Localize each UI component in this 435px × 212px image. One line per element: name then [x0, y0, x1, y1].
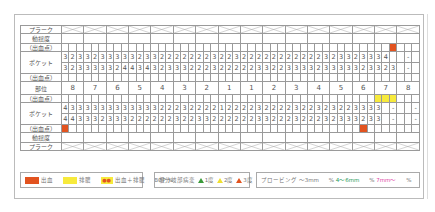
- bleeding-point-cell[interactable]: [412, 125, 420, 133]
- plaque-cell[interactable]: [151, 26, 173, 34]
- pocket-depth-cell[interactable]: 3: [99, 52, 106, 63]
- bleeding-point-cell[interactable]: [211, 74, 218, 82]
- bleeding-point-cell[interactable]: [389, 95, 396, 103]
- plaque-cell[interactable]: [151, 143, 173, 151]
- pocket-depth-cell[interactable]: [397, 52, 404, 63]
- bleeding-point-cell[interactable]: [389, 74, 396, 82]
- bleeding-point-cell[interactable]: [330, 44, 337, 52]
- bleeding-point-cell[interactable]: [106, 74, 113, 82]
- bleeding-point-cell[interactable]: [203, 74, 210, 82]
- bleeding-point-cell[interactable]: [225, 74, 232, 82]
- plaque-cell[interactable]: [285, 26, 307, 34]
- pocket-depth-cell[interactable]: 2: [315, 52, 322, 63]
- bleeding-point-cell[interactable]: [114, 74, 121, 82]
- plaque-cell[interactable]: [196, 143, 218, 151]
- pocket-depth-cell[interactable]: 2: [203, 63, 210, 74]
- bleeding-point-cell[interactable]: [62, 125, 69, 133]
- pocket-depth-cell[interactable]: 2: [293, 52, 300, 63]
- pocket-depth-cell[interactable]: [397, 114, 404, 125]
- bleeding-point-cell[interactable]: [248, 44, 255, 52]
- bleeding-point-cell[interactable]: [360, 95, 367, 103]
- bleeding-point-cell[interactable]: [397, 125, 404, 133]
- plaque-cell[interactable]: [352, 26, 374, 34]
- pocket-depth-cell[interactable]: 3: [121, 114, 128, 125]
- bleeding-point-cell[interactable]: [412, 95, 420, 103]
- bleeding-point-cell[interactable]: [76, 95, 83, 103]
- pocket-depth-cell[interactable]: 3: [322, 52, 329, 63]
- bleeding-point-cell[interactable]: [143, 125, 150, 133]
- bleeding-point-cell[interactable]: [181, 125, 188, 133]
- plaque-cell[interactable]: [129, 26, 151, 34]
- bleeding-point-cell[interactable]: [136, 125, 143, 133]
- pocket-depth-cell[interactable]: 2: [315, 63, 322, 74]
- bleeding-point-cell[interactable]: [143, 44, 150, 52]
- plaque-cell[interactable]: [106, 143, 128, 151]
- bleeding-point-cell[interactable]: [69, 95, 76, 103]
- mobility-cell[interactable]: [196, 133, 218, 143]
- pocket-depth-cell[interactable]: 3: [367, 52, 374, 63]
- mobility-cell[interactable]: [129, 133, 151, 143]
- pocket-depth-cell[interactable]: 2: [307, 103, 314, 114]
- bleeding-point-cell[interactable]: [263, 44, 270, 52]
- bleeding-point-cell[interactable]: [106, 95, 113, 103]
- pocket-depth-cell[interactable]: 2: [91, 52, 98, 63]
- bleeding-point-cell[interactable]: [248, 95, 255, 103]
- bleeding-point-cell[interactable]: [307, 95, 314, 103]
- pocket-depth-cell[interactable]: 3: [263, 63, 270, 74]
- pocket-depth-cell[interactable]: 2: [330, 52, 337, 63]
- bleeding-point-cell[interactable]: [330, 95, 337, 103]
- pocket-depth-cell[interactable]: 3: [322, 63, 329, 74]
- bleeding-point-cell[interactable]: [240, 95, 247, 103]
- pocket-depth-cell[interactable]: 2: [255, 52, 262, 63]
- bleeding-point-cell[interactable]: [345, 44, 352, 52]
- pocket-depth-cell[interactable]: 3: [151, 52, 158, 63]
- pocket-depth-cell[interactable]: 3: [367, 114, 374, 125]
- pocket-depth-cell[interactable]: [412, 63, 420, 74]
- bleeding-point-cell[interactable]: [270, 74, 277, 82]
- pocket-depth-cell[interactable]: 2: [188, 114, 195, 125]
- bleeding-point-cell[interactable]: [62, 95, 69, 103]
- bleeding-point-cell[interactable]: [203, 125, 210, 133]
- bleeding-point-cell[interactable]: [188, 95, 195, 103]
- bleeding-point-cell[interactable]: [218, 74, 225, 82]
- pocket-depth-cell[interactable]: 2: [300, 52, 307, 63]
- pocket-depth-cell[interactable]: 2: [218, 52, 225, 63]
- pocket-depth-cell[interactable]: 2: [225, 114, 232, 125]
- bleeding-point-cell[interactable]: [367, 74, 374, 82]
- bleeding-point-cell[interactable]: [375, 44, 382, 52]
- bleeding-point-cell[interactable]: [76, 125, 83, 133]
- pocket-depth-cell[interactable]: 3: [76, 52, 83, 63]
- bleeding-point-cell[interactable]: [375, 95, 382, 103]
- pocket-depth-cell[interactable]: 3: [69, 103, 76, 114]
- mobility-cell[interactable]: [173, 34, 195, 44]
- pocket-depth-cell[interactable]: 3: [106, 63, 113, 74]
- bleeding-point-cell[interactable]: [248, 74, 255, 82]
- pocket-depth-cell[interactable]: 3: [84, 63, 91, 74]
- pocket-depth-cell[interactable]: 2: [143, 114, 150, 125]
- pocket-depth-cell[interactable]: 4: [143, 63, 150, 74]
- bleeding-point-cell[interactable]: [233, 125, 240, 133]
- bleeding-point-cell[interactable]: [181, 44, 188, 52]
- bleeding-point-cell[interactable]: [158, 44, 165, 52]
- bleeding-point-cell[interactable]: [106, 44, 113, 52]
- bleeding-point-cell[interactable]: [315, 44, 322, 52]
- pocket-depth-cell[interactable]: [382, 114, 389, 125]
- pocket-depth-cell[interactable]: 3: [84, 114, 91, 125]
- pocket-depth-cell[interactable]: 3: [293, 103, 300, 114]
- pocket-depth-cell[interactable]: 2: [158, 103, 165, 114]
- bleeding-point-cell[interactable]: [293, 44, 300, 52]
- bleeding-point-cell[interactable]: [218, 125, 225, 133]
- bleeding-point-cell[interactable]: [337, 125, 344, 133]
- bleeding-point-cell[interactable]: [211, 125, 218, 133]
- pocket-depth-cell[interactable]: 3: [255, 103, 262, 114]
- pocket-depth-cell[interactable]: 2: [136, 114, 143, 125]
- plaque-cell[interactable]: [84, 26, 106, 34]
- plaque-cell[interactable]: [106, 26, 128, 34]
- pocket-depth-cell[interactable]: 3: [114, 103, 121, 114]
- pocket-depth-cell[interactable]: 2: [240, 63, 247, 74]
- pocket-depth-cell[interactable]: 3: [360, 52, 367, 63]
- bleeding-point-cell[interactable]: [173, 95, 180, 103]
- plaque-cell[interactable]: [307, 26, 329, 34]
- bleeding-point-cell[interactable]: [270, 95, 277, 103]
- bleeding-point-cell[interactable]: [360, 74, 367, 82]
